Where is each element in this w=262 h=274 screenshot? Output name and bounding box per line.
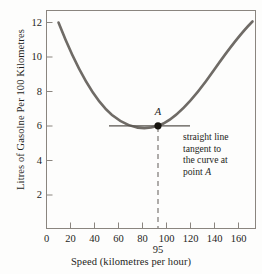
tangent-annotation: straight line tangent to the curve at po… xyxy=(183,131,257,177)
annotation-line-4-wrap: point A xyxy=(183,166,257,178)
annotation-line: straight line xyxy=(183,131,257,143)
point-a-label: A xyxy=(150,106,166,117)
marker-x-value-label: 95 xyxy=(143,245,173,255)
x-axis-ticks xyxy=(47,223,239,229)
y-axis-title: Litres of Gasolne Per 100 Kilometres xyxy=(15,4,26,216)
annotation-line-3: the curve at xyxy=(183,154,228,165)
x-tick-label: 160 xyxy=(224,234,254,244)
plot-frame xyxy=(47,11,256,229)
annotation-line-2: tangent to xyxy=(183,143,221,154)
y-axis-ticks xyxy=(47,23,53,196)
chart-figure: 12 10 8 6 4 2 0 20 40 60 80 100 120 140 … xyxy=(0,0,262,274)
annotation-line-2-wrap: tangent to xyxy=(183,143,257,155)
annotation-line-4: point xyxy=(183,166,205,177)
annotation-line-3-wrap: the curve at xyxy=(183,154,257,166)
x-axis-title: Speed (kilometres per hour) xyxy=(0,256,262,267)
annotation-point-ref: A xyxy=(205,166,211,177)
point-a-marker xyxy=(154,122,161,129)
annotation-line-1: straight line xyxy=(183,131,229,142)
